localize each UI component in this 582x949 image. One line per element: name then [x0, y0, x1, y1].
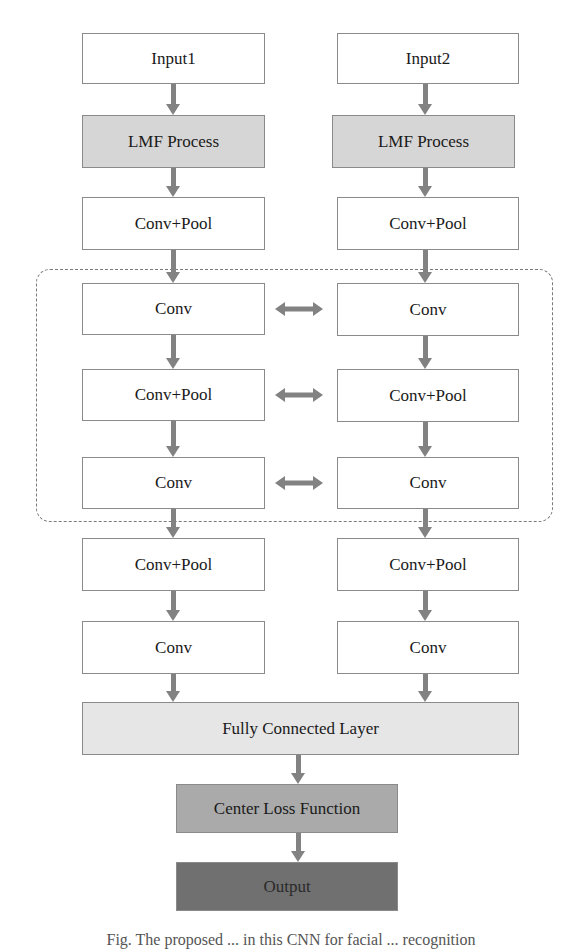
arrow-down-icon	[291, 755, 305, 784]
arrow-down-icon	[418, 674, 432, 702]
arrow-down-icon	[166, 509, 180, 538]
double-arrow-icon	[275, 476, 323, 490]
lmf-process-left-box: LMF Process	[82, 115, 265, 168]
conv-left-2-box: Conv	[82, 457, 265, 509]
arrow-down-icon	[291, 833, 305, 862]
conv-pool-left-3-box: Conv+Pool	[82, 538, 265, 591]
arrow-down-icon	[418, 509, 432, 538]
input2-box: Input2	[337, 33, 519, 84]
arrow-down-icon	[166, 335, 180, 369]
conv-right-2-box: Conv	[337, 457, 519, 509]
conv-pool-left-1-box: Conv+Pool	[82, 197, 265, 250]
arrow-down-icon	[418, 591, 432, 621]
conv-left-1-box: Conv	[82, 283, 265, 335]
arrow-down-icon	[418, 168, 432, 197]
double-arrow-icon	[275, 388, 323, 402]
arrow-down-icon	[166, 250, 180, 283]
fully-connected-layer-box: Fully Connected Layer	[82, 702, 519, 755]
conv-pool-left-2-box: Conv+Pool	[82, 369, 265, 421]
double-arrow-icon	[275, 302, 323, 316]
arrow-down-icon	[418, 84, 432, 115]
conv-pool-right-2-box: Conv+Pool	[337, 369, 519, 422]
arrow-down-icon	[418, 336, 432, 369]
center-loss-function-box: Center Loss Function	[176, 784, 398, 833]
arrow-down-icon	[166, 168, 180, 197]
conv-pool-right-1-box: Conv+Pool	[337, 197, 519, 250]
conv-right-3-box: Conv	[337, 621, 519, 674]
conv-right-1-box: Conv	[337, 283, 519, 336]
arrow-down-icon	[166, 591, 180, 621]
conv-pool-right-3-box: Conv+Pool	[337, 538, 519, 591]
conv-left-3-box: Conv	[82, 621, 265, 674]
output-box: Output	[176, 862, 398, 911]
figure-caption: Fig. The proposed ... in this CNN for fa…	[0, 931, 582, 949]
arrow-down-icon	[166, 84, 180, 115]
input1-box: Input1	[82, 33, 265, 84]
arrow-down-icon	[166, 421, 180, 457]
lmf-process-right-box: LMF Process	[332, 115, 515, 168]
arrow-down-icon	[418, 422, 432, 457]
arrow-down-icon	[418, 250, 432, 283]
arrow-down-icon	[166, 674, 180, 702]
